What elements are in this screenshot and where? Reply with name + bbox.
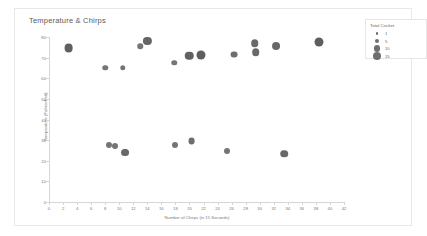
x-tick-mark [316, 202, 317, 205]
y-tick-mark [46, 78, 49, 79]
x-tick-mark [49, 202, 50, 205]
legend-swatch-cell [370, 52, 384, 60]
x-tick-mark [63, 202, 64, 205]
y-tick-mark [46, 161, 49, 162]
x-tick-label: 34 [285, 206, 290, 211]
x-tick-label: 24 [215, 206, 220, 211]
y-tick-mark [46, 58, 49, 59]
x-tick-label: 30 [257, 206, 262, 211]
legend-swatch-circle-icon [376, 32, 378, 34]
x-axis-line [49, 202, 345, 203]
x-tick-label: 22 [201, 206, 206, 211]
x-tick-label: 12 [131, 206, 136, 211]
x-tick-mark [288, 202, 289, 205]
legend-title: Total Cricket [370, 23, 422, 28]
legend: Total Cricket 151015 [365, 19, 427, 59]
data-point[interactable] [185, 51, 194, 60]
y-axis-tick-labels: 01020304050607080 [15, 37, 46, 202]
x-tick-mark [119, 202, 120, 205]
x-tick-label: 0 [48, 206, 50, 211]
y-tick-mark [46, 181, 49, 182]
data-point[interactable] [281, 150, 289, 158]
x-tick-label: 4 [76, 206, 78, 211]
visualization-card: Temperature & Chirps Temperature (Fahren… [14, 8, 412, 226]
x-tick-mark [204, 202, 205, 205]
x-tick-label: 38 [314, 206, 319, 211]
scatter-plot-area [49, 37, 344, 202]
x-tick-label: 42 [342, 206, 347, 211]
x-tick-label: 40 [328, 206, 333, 211]
x-tick-label: 10 [117, 206, 122, 211]
x-tick-label: 14 [145, 206, 150, 211]
x-tick-label: 2 [62, 206, 64, 211]
legend-item-label: 1 [385, 31, 387, 36]
legend-swatch-circle-icon [375, 39, 380, 44]
data-point[interactable] [188, 138, 195, 145]
x-tick-label: 20 [187, 206, 192, 211]
data-point[interactable] [314, 38, 323, 47]
y-tick-mark [46, 140, 49, 141]
data-point[interactable] [231, 51, 238, 58]
x-tick-mark [274, 202, 275, 205]
x-axis-title: Number of Chirps (in 15 Seconds) [49, 215, 345, 220]
data-point[interactable] [120, 65, 125, 70]
legend-item-label: 5 [385, 39, 387, 44]
legend-swatch-circle-icon [373, 52, 381, 60]
x-tick-mark [260, 202, 261, 205]
data-point[interactable] [197, 50, 206, 59]
x-tick-mark [105, 202, 106, 205]
legend-item[interactable]: 10 [370, 45, 422, 52]
legend-item[interactable]: 15 [370, 53, 422, 60]
x-tick-mark [344, 202, 345, 205]
x-tick-mark [218, 202, 219, 205]
y-tick-mark [46, 37, 49, 38]
x-tick-label: 32 [271, 206, 276, 211]
legend-item[interactable]: 5 [370, 38, 422, 45]
data-point[interactable] [143, 37, 151, 45]
page-title: Temperature & Chirps [29, 16, 106, 25]
x-tick-mark [161, 202, 162, 205]
x-tick-mark [246, 202, 247, 205]
data-point[interactable] [252, 49, 260, 57]
data-point[interactable] [138, 44, 143, 49]
legend-swatch-cell [370, 39, 384, 44]
legend-item[interactable]: 1 [370, 30, 422, 37]
x-axis-tick-labels: 024681012141618202224262830323436384042 [49, 206, 345, 214]
x-tick-label: 8 [104, 206, 106, 211]
legend-item-label: 15 [385, 54, 390, 59]
x-tick-mark [147, 202, 148, 205]
y-tick-mark [46, 120, 49, 121]
data-point[interactable] [251, 39, 259, 47]
legend-swatch-circle-icon [374, 45, 380, 51]
data-point[interactable] [172, 142, 178, 148]
x-tick-label: 6 [90, 206, 92, 211]
legend-items: 151015 [370, 30, 422, 60]
legend-item-label: 10 [385, 46, 390, 51]
x-tick-mark [77, 202, 78, 205]
x-tick-mark [189, 202, 190, 205]
data-point[interactable] [102, 65, 107, 70]
x-tick-label: 18 [173, 206, 178, 211]
x-tick-mark [91, 202, 92, 205]
data-point[interactable] [224, 148, 230, 154]
x-tick-label: 28 [243, 206, 248, 211]
x-tick-label: 16 [159, 206, 164, 211]
x-tick-mark [330, 202, 331, 205]
x-tick-label: 26 [229, 206, 234, 211]
data-point[interactable] [64, 44, 73, 53]
x-tick-label: 36 [300, 206, 305, 211]
x-tick-mark [133, 202, 134, 205]
x-tick-mark [175, 202, 176, 205]
x-tick-mark [232, 202, 233, 205]
legend-swatch-cell [370, 32, 384, 34]
data-point[interactable] [112, 143, 118, 149]
data-point[interactable] [272, 42, 280, 50]
legend-swatch-cell [370, 45, 384, 51]
data-point[interactable] [171, 60, 176, 65]
x-tick-mark [302, 202, 303, 205]
data-point[interactable] [121, 149, 129, 157]
y-tick-mark [46, 99, 49, 100]
